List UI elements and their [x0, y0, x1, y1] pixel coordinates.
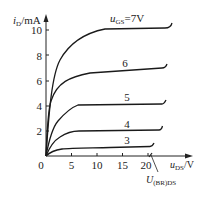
curve-ugs-6v — [46, 64, 167, 156]
curve-label-4v: 4 — [124, 118, 130, 130]
x-axis-arrow-icon — [185, 154, 193, 159]
curve-label-7v: uGS=7V — [110, 12, 144, 26]
origin-label: 0 — [38, 159, 44, 171]
curve-ugs-7v — [46, 23, 172, 156]
breakdown-leader-line — [151, 155, 158, 172]
y-tick-label-6: 6 — [37, 75, 43, 87]
curve-label-3v: 3 — [124, 134, 130, 146]
y-tick-label-2: 2 — [37, 125, 43, 137]
axes — [44, 14, 194, 159]
x-tick-label-10: 10 — [92, 159, 104, 171]
curve-ugs-4v — [46, 126, 163, 156]
x-tick-label-20: 20 — [141, 159, 153, 171]
breakdown-label: U(BR)DS — [146, 174, 176, 187]
curve-label-5v: 5 — [124, 91, 130, 103]
y-axis-arrow-icon — [44, 14, 49, 22]
x-tick-label-15: 15 — [117, 159, 129, 171]
y-axis-title: iD/mA — [13, 14, 41, 28]
mosfet-output-characteristics-chart: 10 8 6 4 2 0 5 10 15 20 iD/mA uDS/V uGS=… — [0, 0, 205, 197]
y-tick-label-8: 8 — [37, 50, 43, 62]
curve-label-7v-sub: GS — [116, 18, 125, 26]
curve-ugs-3v — [46, 143, 154, 156]
curve-label-7v-rest: =7V — [124, 12, 144, 24]
y-tick-label-4: 4 — [37, 100, 43, 112]
curve-label-6v: 6 — [122, 57, 128, 69]
x-axis-title-unit: /V — [184, 159, 195, 170]
x-axis-title-sub: DS — [175, 164, 184, 172]
y-axis-title-unit: /mA — [21, 14, 41, 26]
breakdown-label-sub: (BR)DS — [153, 179, 176, 187]
x-axis-title: uDS/V — [170, 159, 195, 172]
x-tick-label-5: 5 — [69, 159, 75, 171]
curves — [46, 23, 172, 156]
